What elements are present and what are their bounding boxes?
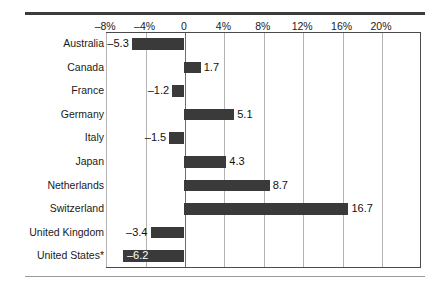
bar — [184, 156, 226, 168]
bottom-divider-rule — [25, 276, 425, 277]
top-divider-rule — [25, 12, 425, 15]
value-label: 5.1 — [237, 103, 252, 127]
category-label: Germany — [61, 103, 104, 127]
chart-row: Canada1.7 — [0, 56, 444, 80]
chart-row: Netherlands8.7 — [0, 174, 444, 198]
bar — [172, 85, 184, 97]
category-label: Switzerland — [50, 197, 104, 221]
bar — [132, 38, 184, 50]
value-label: –5.3 — [0, 32, 129, 56]
value-label: 8.7 — [273, 174, 288, 198]
value-label: 1.7 — [204, 56, 219, 80]
value-label: –3.4 — [0, 221, 148, 245]
bar — [184, 203, 348, 215]
chart-row: Japan4.3 — [0, 150, 444, 174]
value-label: –6.2 — [127, 244, 148, 268]
category-label: Canada — [67, 56, 104, 80]
category-label: Netherlands — [47, 174, 104, 198]
category-label: Japan — [75, 150, 104, 174]
value-label: 16.7 — [351, 197, 372, 221]
bar — [151, 227, 184, 239]
value-label: –1.5 — [0, 126, 166, 150]
chart-row: Australia–5.3 — [0, 32, 444, 56]
chart-rows: Australia–5.3Canada1.7France–1.2Germany5… — [0, 32, 444, 268]
bar — [184, 109, 234, 121]
value-label: –1.2 — [0, 79, 169, 103]
chart-row: France–1.2 — [0, 79, 444, 103]
chart-row: United Kingdom–3.4 — [0, 221, 444, 245]
bar — [184, 62, 201, 74]
bar — [169, 132, 184, 144]
bar-chart-figure: –8%–4%04%8%12%16%20% Australia–5.3Canada… — [0, 0, 444, 293]
bar — [184, 180, 270, 192]
chart-row: Italy–1.5 — [0, 126, 444, 150]
chart-row: United States*–6.2 — [0, 244, 444, 268]
category-label: United States* — [37, 244, 104, 268]
chart-row: Germany5.1 — [0, 103, 444, 127]
value-label: 4.3 — [229, 150, 244, 174]
chart-row: Switzerland16.7 — [0, 197, 444, 221]
